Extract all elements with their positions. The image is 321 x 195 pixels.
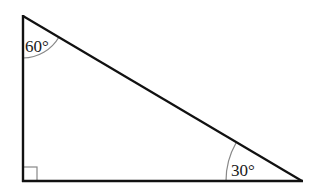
right-triangle-diagram: 60° 30° [0,0,321,195]
angle-label-60: 60° [25,37,49,56]
right-angle-marker [23,167,37,181]
angle-label-30: 30° [231,161,255,180]
side-hypotenuse [23,16,302,181]
